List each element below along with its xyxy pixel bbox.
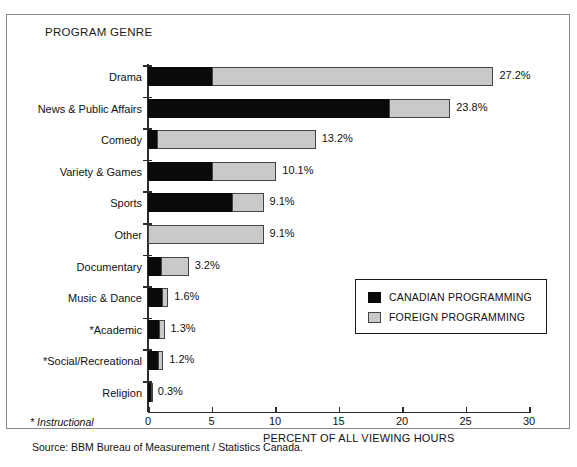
bar-segment-foreign[interactable]: [148, 225, 264, 244]
bar-segment-canadian[interactable]: [148, 257, 161, 276]
x-axis-tick: [275, 407, 277, 413]
stacked-bar[interactable]: [148, 383, 153, 402]
chart-row: Drama27.2%: [0, 64, 577, 94]
bar-segment-foreign[interactable]: [161, 257, 189, 276]
x-axis-tick-label: 5: [208, 415, 214, 427]
x-axis-tick: [529, 407, 531, 413]
category-label: Other: [2, 229, 142, 241]
chart-row: Variety & Games10.1%: [0, 159, 577, 189]
legend-swatch-foreign-icon: [368, 312, 381, 323]
plot-area: Drama27.2%News & Public Affairs23.8%Come…: [0, 0, 577, 467]
bar-segment-foreign[interactable]: [157, 130, 316, 149]
x-axis-tick: [402, 407, 404, 413]
source-note: Source: BBM Bureau of Measurement / Stat…: [32, 441, 303, 453]
category-label: Sports: [2, 197, 142, 209]
bar-value-label: 1.6%: [174, 290, 199, 302]
bar-segment-foreign[interactable]: [159, 320, 164, 339]
bar-value-label: 13.2%: [322, 132, 353, 144]
stacked-bar[interactable]: [148, 130, 316, 149]
bar-segment-foreign[interactable]: [162, 288, 168, 307]
bar-segment-canadian[interactable]: [148, 162, 212, 181]
bar-value-label: 9.1%: [270, 227, 295, 239]
stacked-bar[interactable]: [148, 193, 264, 212]
bar-value-label: 1.2%: [169, 353, 194, 365]
bar-segment-foreign[interactable]: [212, 67, 494, 86]
bar-segment-canadian[interactable]: [148, 351, 158, 370]
category-label: Drama: [2, 71, 142, 83]
legend-item-foreign: FOREIGN PROGRAMMING: [368, 307, 546, 327]
stacked-bar[interactable]: [148, 257, 189, 276]
chart-row: *Social/Recreational1.2%: [0, 348, 577, 378]
stacked-bar[interactable]: [148, 67, 493, 86]
x-axis-tick: [212, 407, 214, 413]
chart-row: Comedy13.2%: [0, 127, 577, 157]
category-label: News & Public Affairs: [2, 103, 142, 115]
bar-segment-canadian[interactable]: [148, 130, 157, 149]
chart-page: PROGRAM GENRE Drama27.2%News & Public Af…: [0, 0, 577, 467]
bar-value-label: 0.3%: [158, 385, 183, 397]
bar-segment-foreign[interactable]: [389, 99, 450, 118]
x-axis-tick-label: 25: [459, 415, 471, 427]
legend-swatch-canadian-icon: [368, 292, 381, 303]
category-label: *Social/Recreational: [2, 355, 142, 367]
category-label: Religion: [2, 387, 142, 399]
stacked-bar[interactable]: [148, 288, 168, 307]
chart-row: Religion0.3%: [0, 380, 577, 410]
bar-value-label: 10.1%: [282, 164, 313, 176]
x-axis-tick-label: 15: [332, 415, 344, 427]
x-axis-tick: [339, 407, 341, 413]
bar-segment-foreign[interactable]: [151, 383, 153, 402]
category-label: *Academic: [2, 324, 142, 336]
category-label: Music & Dance: [2, 292, 142, 304]
category-label: Variety & Games: [2, 166, 142, 178]
bar-segment-canadian[interactable]: [148, 67, 212, 86]
chart-row: Sports9.1%: [0, 190, 577, 220]
stacked-bar[interactable]: [148, 320, 165, 339]
legend-label-canadian: CANADIAN PROGRAMMING: [389, 291, 532, 303]
footnote: * Instructional: [30, 416, 94, 428]
x-axis-tick: [148, 407, 150, 413]
bar-segment-canadian[interactable]: [148, 288, 162, 307]
chart-row: Other9.1%: [0, 222, 577, 252]
category-label: Documentary: [2, 261, 142, 273]
bar-segment-canadian[interactable]: [148, 99, 389, 118]
category-label: Comedy: [2, 134, 142, 146]
x-axis-tick: [466, 407, 468, 413]
bar-segment-canadian[interactable]: [148, 193, 232, 212]
stacked-bar[interactable]: [148, 351, 163, 370]
bar-value-label: 1.3%: [171, 322, 196, 334]
x-axis-tick-label: 30: [523, 415, 535, 427]
stacked-bar[interactable]: [148, 99, 450, 118]
legend-item-canadian: CANADIAN PROGRAMMING: [368, 287, 546, 307]
bar-value-label: 3.2%: [195, 259, 220, 271]
bar-value-label: 9.1%: [270, 195, 295, 207]
stacked-bar[interactable]: [148, 225, 264, 244]
legend-label-foreign: FOREIGN PROGRAMMING: [389, 311, 525, 323]
bar-segment-foreign[interactable]: [232, 193, 264, 212]
bar-segment-foreign[interactable]: [212, 162, 277, 181]
bar-value-label: 23.8%: [456, 101, 487, 113]
bar-value-label: 27.2%: [499, 69, 530, 81]
x-axis-tick-label: 10: [269, 415, 281, 427]
bar-segment-canadian[interactable]: [148, 320, 159, 339]
x-axis-tick-label: 20: [396, 415, 408, 427]
x-axis-tick-label: 0: [145, 415, 151, 427]
chart-legend: CANADIAN PROGRAMMING FOREIGN PROGRAMMING: [355, 279, 547, 334]
chart-row: News & Public Affairs23.8%: [0, 96, 577, 126]
bar-segment-foreign[interactable]: [158, 351, 163, 370]
stacked-bar[interactable]: [148, 162, 276, 181]
